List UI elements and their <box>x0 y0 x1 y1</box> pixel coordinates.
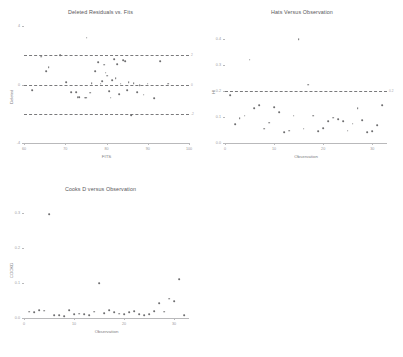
data-point <box>102 80 104 82</box>
data-point <box>98 282 100 284</box>
data-point <box>118 93 120 95</box>
reference-line <box>24 55 189 56</box>
data-point <box>89 92 91 94</box>
data-point <box>143 94 145 96</box>
data-point <box>85 97 87 99</box>
data-point <box>168 83 170 85</box>
x-axis-tick-label: 10 <box>272 147 276 151</box>
chart-panel-cooksd: Cooks D versus Observation 01020300.00.1… <box>0 178 201 357</box>
y-axis-tick-label: 0 <box>7 83 20 87</box>
reference-line <box>24 114 189 115</box>
x-axis-tick-label: 90 <box>146 147 150 151</box>
data-point <box>97 61 99 63</box>
data-point <box>371 130 373 132</box>
data-point <box>116 63 118 65</box>
data-point <box>244 115 246 117</box>
data-point <box>113 58 115 60</box>
data-point <box>126 90 128 92</box>
x-axis-tick-label: 0 <box>224 147 226 151</box>
data-point <box>183 314 185 316</box>
data-point <box>110 97 112 99</box>
data-point <box>234 123 236 125</box>
data-point <box>73 313 75 315</box>
data-point <box>158 302 160 304</box>
data-point <box>43 310 45 312</box>
data-point <box>106 75 108 77</box>
x-axis-tick <box>24 143 25 145</box>
x-axis-tick <box>372 143 373 145</box>
data-point <box>120 83 122 85</box>
data-point <box>113 312 115 314</box>
y-axis-tick <box>22 213 24 214</box>
x-axis-tick-label: 20 <box>122 322 126 326</box>
x-axis-tick <box>189 143 190 145</box>
data-point <box>138 314 140 316</box>
x-axis-tick <box>107 143 108 145</box>
chart-title-cooksd: Cooks D versus Observation <box>0 186 201 192</box>
plot-area-hats: 01020300.00.10.20.30.40.2 <box>225 26 387 143</box>
data-point <box>376 124 378 126</box>
x-axis-tick-label: 80 <box>104 147 108 151</box>
data-point <box>108 309 110 311</box>
data-point <box>122 60 124 62</box>
y-axis-tick <box>223 143 225 144</box>
y-axis-tick-label: 0.1 <box>208 115 221 119</box>
y-axis-label-deleted: Deleted <box>9 90 14 104</box>
data-point <box>367 131 369 133</box>
data-point <box>115 77 117 79</box>
x-axis-tick-label: 30 <box>370 147 374 151</box>
data-point <box>48 213 50 215</box>
data-point <box>308 84 310 86</box>
y-axis-label-cookd: COOKD <box>9 263 14 278</box>
data-point <box>78 313 80 315</box>
data-point <box>154 98 156 100</box>
y-axis-tick <box>223 65 225 66</box>
y-axis-tick <box>22 26 24 27</box>
data-point <box>58 314 60 316</box>
data-point <box>148 314 150 316</box>
data-point <box>362 119 364 121</box>
data-point <box>143 314 145 316</box>
x-axis-label-observation-hats: Observation <box>225 154 387 159</box>
x-axis-tick <box>225 143 226 145</box>
chart-panel-hats: Hats Versus Observation 01020300.00.10.2… <box>201 0 403 178</box>
data-point <box>48 66 50 68</box>
data-point <box>249 59 251 61</box>
data-point <box>33 312 35 314</box>
data-point <box>63 315 65 317</box>
data-point <box>239 117 241 119</box>
data-point <box>75 91 77 93</box>
x-axis-tick <box>74 318 75 320</box>
y-axis-tick <box>223 39 225 40</box>
x-axis <box>24 318 189 319</box>
data-point <box>278 111 280 113</box>
data-point <box>313 115 315 117</box>
data-point <box>136 91 138 93</box>
data-point <box>28 311 30 313</box>
data-point <box>45 70 47 72</box>
data-point <box>111 79 113 81</box>
data-point <box>59 54 61 56</box>
x-axis-tick-label: 0 <box>23 322 25 326</box>
data-point <box>105 72 107 74</box>
data-point <box>133 82 135 84</box>
data-point <box>178 278 180 280</box>
data-point <box>70 91 72 93</box>
data-point <box>78 96 80 98</box>
x-axis-tick-label: 100 <box>186 147 192 151</box>
reference-line-label: -2 <box>191 112 194 116</box>
y-axis-tick <box>22 248 24 249</box>
data-point <box>337 118 339 120</box>
data-point <box>88 314 90 316</box>
data-point <box>288 130 290 132</box>
reference-line-label: 0 <box>191 83 193 87</box>
data-point <box>147 83 149 85</box>
y-axis-tick-label: 0.1 <box>7 281 20 285</box>
y-axis-tick <box>22 143 24 144</box>
data-point <box>352 123 354 125</box>
data-point <box>65 81 67 83</box>
y-axis-tick-label: 4 <box>7 24 20 28</box>
x-axis-tick <box>323 143 324 145</box>
x-axis <box>225 143 387 144</box>
chart-title-hats: Hats Versus Observation <box>201 9 403 15</box>
